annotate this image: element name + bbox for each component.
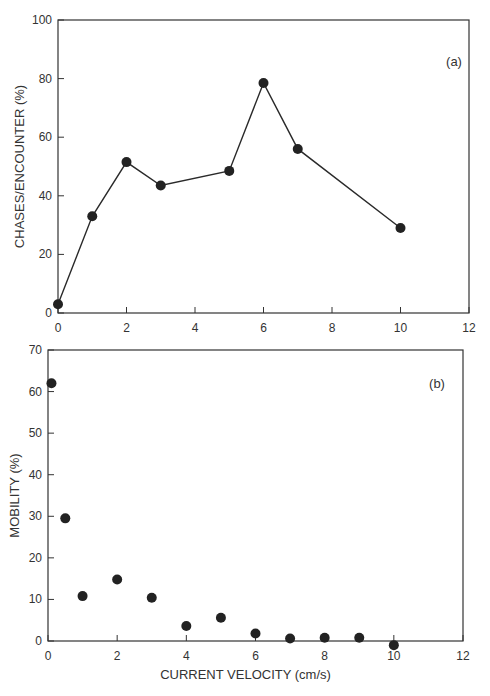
x-axis-title: CURRENT VELOCITY (cm/s) xyxy=(160,667,331,682)
y-tick-label: 0 xyxy=(35,634,42,648)
y-tick-label: 80 xyxy=(39,72,53,86)
figure: 024681012020406080100CHASES/ENCOUNTER (%… xyxy=(0,0,490,696)
data-point xyxy=(122,157,132,167)
y-tick-label: 40 xyxy=(29,468,43,482)
data-point xyxy=(156,181,166,191)
y-tick-label: 20 xyxy=(39,247,53,261)
y-tick-label: 50 xyxy=(29,426,43,440)
data-point xyxy=(285,634,295,644)
x-tick-label: 4 xyxy=(183,649,190,663)
x-tick-label: 2 xyxy=(114,649,121,663)
data-point xyxy=(181,621,191,631)
data-point xyxy=(293,144,303,154)
data-point xyxy=(60,513,70,523)
y-tick-label: 100 xyxy=(32,13,52,27)
x-tick-label: 6 xyxy=(260,321,267,335)
data-point xyxy=(259,78,269,88)
x-tick-label: 8 xyxy=(321,649,328,663)
data-point xyxy=(147,593,157,603)
data-point xyxy=(46,378,56,388)
y-tick-label: 60 xyxy=(39,130,53,144)
y-tick-label: 20 xyxy=(29,551,43,565)
data-point xyxy=(224,166,234,176)
x-tick-label: 10 xyxy=(394,321,408,335)
y-tick-label: 30 xyxy=(29,509,43,523)
y-axis-title: CHASES/ENCOUNTER (%) xyxy=(12,85,27,248)
chart-panel-b: 024681012010203040506070MOBILITY (%)CURR… xyxy=(7,343,470,682)
plot-frame xyxy=(58,20,469,313)
x-tick-label: 0 xyxy=(45,649,52,663)
y-tick-label: 0 xyxy=(45,306,52,320)
data-point xyxy=(78,591,88,601)
y-axis-title: MOBILITY (%) xyxy=(7,453,22,537)
x-tick-label: 10 xyxy=(387,649,401,663)
x-tick-label: 8 xyxy=(329,321,336,335)
data-point xyxy=(53,299,63,309)
x-tick-label: 12 xyxy=(462,321,476,335)
y-tick-label: 10 xyxy=(29,592,43,606)
x-tick-label: 4 xyxy=(192,321,199,335)
x-tick-label: 2 xyxy=(123,321,130,335)
data-point xyxy=(354,633,364,643)
data-point xyxy=(320,633,330,643)
y-tick-label: 60 xyxy=(29,385,43,399)
panel-label: (b) xyxy=(429,376,445,391)
chart-panel-a: 024681012020406080100CHASES/ENCOUNTER (%… xyxy=(12,13,476,335)
x-tick-label: 6 xyxy=(252,649,259,663)
x-tick-label: 12 xyxy=(456,649,470,663)
data-point xyxy=(396,223,406,233)
data-point xyxy=(112,574,122,584)
panel-label: (a) xyxy=(446,54,462,69)
data-point xyxy=(251,629,261,639)
plot-frame xyxy=(48,350,463,641)
data-line xyxy=(58,83,401,304)
data-point xyxy=(87,211,97,221)
y-tick-label: 70 xyxy=(29,343,43,357)
x-tick-label: 0 xyxy=(55,321,62,335)
data-point xyxy=(389,640,399,650)
data-point xyxy=(216,613,226,623)
y-tick-label: 40 xyxy=(39,189,53,203)
